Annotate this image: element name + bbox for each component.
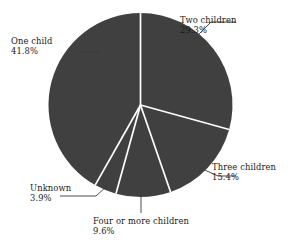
slice-label-one-child-name: One child (11, 36, 53, 46)
slice-label-four-or-more-children: Four or more children 9.6% (93, 216, 189, 237)
slice-label-two-children: Two children 29.3% (180, 15, 237, 36)
slice-label-one-child-percent: 41.8% (11, 46, 53, 56)
slice-label-three-children: Three children 15.4% (212, 162, 276, 183)
slice-label-two-children-name: Two children (180, 15, 237, 25)
slice-label-unknown-percent: 3.9% (30, 193, 71, 203)
slice-label-two-children-percent: 29.3% (180, 25, 237, 35)
slice-label-unknown-name: Unknown (30, 183, 71, 193)
slice-label-three-children-name: Three children (212, 162, 276, 172)
slice-label-four-or-more-children-percent: 9.6% (93, 226, 189, 236)
slice-label-one-child: One child 41.8% (11, 36, 53, 57)
slice-label-three-children-percent: 15.4% (212, 172, 276, 182)
pie-chart-figure: Two children 29.3% One child 41.8% Three… (0, 0, 296, 246)
slice-label-four-or-more-children-name: Four or more children (93, 216, 189, 226)
slice-label-unknown: Unknown 3.9% (30, 183, 71, 204)
